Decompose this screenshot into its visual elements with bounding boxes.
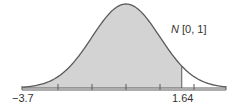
distribution-label: N [0, 1] bbox=[171, 23, 206, 35]
normal-distribution-chart bbox=[0, 0, 237, 111]
shaded-area bbox=[22, 4, 182, 88]
distribution-name: N bbox=[171, 23, 179, 35]
tick-label-cutoff: 1.64 bbox=[172, 92, 193, 104]
tick-label-left: −3.7 bbox=[12, 92, 34, 104]
distribution-params: [0, 1] bbox=[179, 23, 207, 35]
